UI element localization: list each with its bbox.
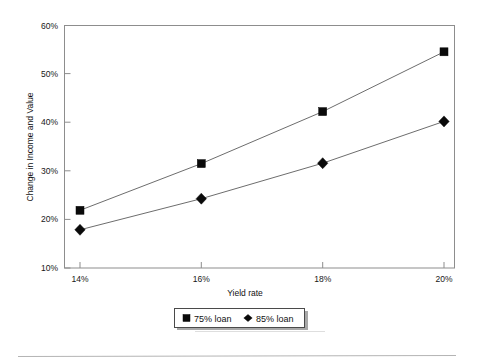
y-axis-title: Change in Income and Value	[25, 92, 35, 201]
page-bottom-rule	[18, 356, 456, 357]
x-tick-label-16: 16%	[193, 274, 210, 284]
line-chart: 10% 20% 30% 40% 50% 60% 14% 16% 18% 20% …	[0, 0, 482, 360]
x-tick-label-18: 18%	[314, 274, 331, 284]
y-axis-ticks	[65, 26, 71, 269]
series-markers-85-loan	[75, 116, 449, 235]
x-axis-title: Yield rate	[227, 288, 263, 298]
chart-legend: 75% loan 85% loan	[175, 309, 309, 331]
data-point-75-loan-14	[76, 206, 84, 214]
chart-figure: 10% 20% 30% 40% 50% 60% 14% 16% 18% 20% …	[0, 0, 482, 360]
data-point-75-loan-18	[319, 108, 327, 116]
data-point-75-loan-20	[440, 48, 448, 56]
x-axis-ticks	[80, 262, 444, 268]
data-point-85-loan-20	[439, 116, 449, 127]
y-tick-label-30: 30%	[41, 166, 58, 176]
x-tick-label-20: 20%	[435, 274, 452, 284]
series-line-75-loan	[80, 52, 444, 211]
x-tick-label-14: 14%	[71, 274, 88, 284]
data-point-85-loan-14	[75, 224, 85, 235]
series-markers-75-loan	[76, 48, 448, 215]
data-point-85-loan-18	[318, 158, 328, 169]
y-tick-label-20: 20%	[41, 214, 58, 224]
y-tick-label-60: 60%	[41, 21, 58, 31]
y-tick-label-10: 10%	[41, 263, 58, 273]
legend-label-75-loan: 75% loan	[194, 314, 232, 324]
data-point-75-loan-16	[197, 160, 205, 168]
y-tick-label-50: 50%	[41, 69, 58, 79]
legend-label-85-loan: 85% loan	[256, 314, 294, 324]
y-tick-label-40: 40%	[41, 117, 58, 127]
plot-area-frame	[65, 26, 455, 269]
data-point-85-loan-16	[196, 193, 206, 204]
legend-marker-square-icon	[183, 315, 190, 322]
